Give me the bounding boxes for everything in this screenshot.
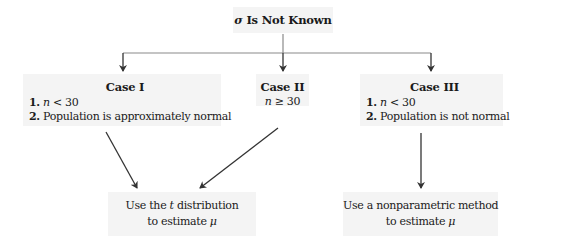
- root-label: Is Not Known: [243, 13, 332, 27]
- case-1-condition-1: 1.n < 30: [29, 96, 221, 109]
- case-2-title: Case II: [256, 80, 309, 94]
- arrow-case-2-to-t-dist: [200, 128, 278, 188]
- outcome-t-distribution-node: Use the t distribution to estimate μ: [108, 192, 256, 236]
- case-3-condition-2: 2.Population is not normal: [366, 110, 503, 123]
- case-3-title: Case III: [366, 80, 503, 94]
- case-1-title: Case I: [29, 80, 221, 94]
- case-1-node: Case I 1.n < 30 2.Population is approxim…: [23, 74, 221, 126]
- case-3-node: Case III 1.n < 30 2.Population is not no…: [360, 74, 503, 126]
- case-1-condition-2: 2.Population is approximately normal: [29, 110, 221, 123]
- case-2-node: Case II n ≥ 30: [256, 74, 309, 106]
- case-2-condition-1: n ≥ 30: [256, 95, 309, 108]
- outcome-t-line-2: to estimate μ: [108, 215, 256, 228]
- case-3-condition-1: 1.n < 30: [366, 96, 503, 109]
- outcome-nonparametric-node: Use a nonparametric method to estimate μ: [343, 192, 498, 236]
- outcome-nonparametric-line-1: Use a nonparametric method: [343, 199, 498, 212]
- sigma-symbol: σ: [234, 13, 242, 27]
- outcome-nonparametric-line-2: to estimate μ: [343, 215, 498, 228]
- outcome-t-line-1: Use the t distribution: [108, 199, 256, 212]
- root-node: σ Is Not Known: [233, 7, 333, 33]
- arrow-case-1-to-t-dist: [106, 132, 137, 188]
